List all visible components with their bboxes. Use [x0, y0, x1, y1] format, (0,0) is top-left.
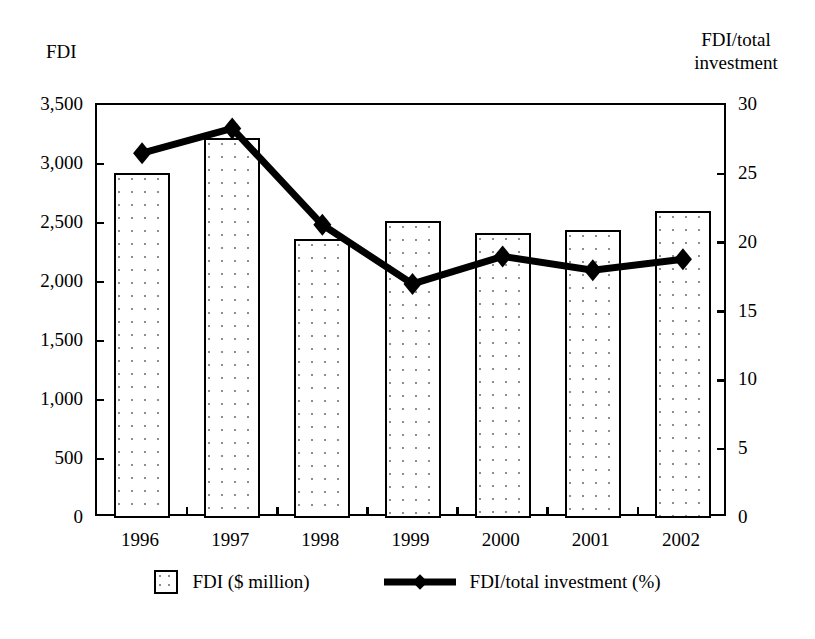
- left-tick-2500: [96, 222, 104, 225]
- x-tick-6: [637, 507, 640, 515]
- bar-1999: [385, 221, 441, 518]
- right-tick-label-30: 30: [738, 94, 798, 113]
- right-tick-15: [717, 310, 725, 313]
- left-axis-title: FDI: [46, 40, 77, 63]
- right-tick-label-25: 25: [738, 162, 798, 181]
- bar-2002: [655, 211, 711, 518]
- left-tick-label-1500: 1,500: [0, 330, 83, 349]
- x-tick-label-2001: 2001: [572, 530, 610, 549]
- fdi-chart-figure: FDI FDI/total investment 05001,0001,5002…: [0, 0, 815, 639]
- right-axis-title: FDI/total investment: [671, 28, 801, 74]
- left-tick-label-1000: 1,000: [0, 389, 83, 408]
- x-tick-label-2002: 2002: [662, 530, 700, 549]
- left-tick-label-3500: 3,500: [0, 94, 83, 113]
- legend-item-fdi-label: FDI ($ million): [192, 571, 309, 593]
- legend-item-ratio[interactable]: FDI/total investment (%): [384, 571, 661, 593]
- left-tick-label-0: 0: [0, 507, 83, 526]
- left-tick-3000: [96, 163, 104, 166]
- right-tick-5: [717, 448, 725, 451]
- line-marker-1997: [223, 117, 241, 139]
- bar-1996: [114, 173, 170, 518]
- right-tick-label-0: 0: [738, 507, 798, 526]
- right-tick-10: [717, 379, 725, 382]
- left-tick-label-3000: 3,000: [0, 153, 83, 172]
- plot-area: [95, 103, 726, 516]
- bar-1997: [204, 138, 260, 518]
- bar-1998: [294, 239, 350, 518]
- bar-2001: [565, 230, 621, 518]
- bar-2000: [475, 233, 531, 518]
- left-tick-1000: [96, 399, 104, 402]
- x-tick-3: [366, 507, 369, 515]
- left-tick-1500: [96, 340, 104, 343]
- left-tick-label-2000: 2,000: [0, 271, 83, 290]
- x-tick-label-2000: 2000: [482, 530, 520, 549]
- chart-legend: FDI ($ million) FDI/total investment (%): [0, 570, 815, 594]
- right-tick-label-10: 10: [738, 369, 798, 388]
- legend-item-fdi[interactable]: FDI ($ million): [154, 570, 309, 594]
- line-marker-1998: [313, 214, 331, 236]
- x-tick-2: [276, 507, 279, 515]
- dotted-square-swatch-icon: [154, 570, 178, 594]
- left-tick-label-500: 500: [0, 448, 83, 467]
- right-tick-20: [717, 241, 725, 244]
- line-marker-1996: [133, 142, 151, 164]
- x-tick-4: [456, 507, 459, 515]
- right-tick-label-15: 15: [738, 300, 798, 319]
- x-tick-1: [186, 507, 189, 515]
- right-tick-label-20: 20: [738, 231, 798, 250]
- right-tick-25: [717, 173, 725, 176]
- plot-inner: [97, 105, 724, 514]
- x-tick-label-1996: 1996: [121, 530, 159, 549]
- line-diamond-swatch-icon: [384, 573, 456, 591]
- right-tick-label-5: 5: [738, 438, 798, 457]
- left-tick-500: [96, 458, 104, 461]
- left-tick-2000: [96, 281, 104, 284]
- legend-item-ratio-label: FDI/total investment (%): [470, 571, 661, 593]
- left-tick-label-2500: 2,500: [0, 212, 83, 231]
- x-tick-label-1997: 1997: [211, 530, 249, 549]
- x-tick-5: [546, 507, 549, 515]
- x-tick-label-1999: 1999: [392, 530, 430, 549]
- x-tick-label-1998: 1998: [301, 530, 339, 549]
